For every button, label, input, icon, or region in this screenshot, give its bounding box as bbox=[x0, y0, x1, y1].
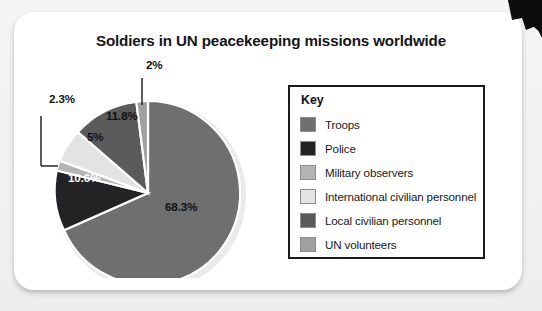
legend-box: Key Troops Police Military observers Int… bbox=[288, 85, 485, 259]
pie-label-local-civilian: 11.8% bbox=[106, 109, 138, 122]
legend-swatch-un-volunteers bbox=[300, 237, 316, 252]
legend-label-un-volunteers: UN volunteers bbox=[325, 238, 397, 251]
pie-label-troops: 68.3% bbox=[165, 200, 197, 213]
pie-label-police: 10.6% bbox=[68, 171, 100, 184]
legend-item-list: Troops Police Military observers Interna… bbox=[300, 112, 479, 256]
legend-label-police: Police bbox=[325, 142, 356, 155]
pie-label-military-observers: 2.3% bbox=[49, 92, 75, 105]
chart-title: Soldiers in UN peacekeeping missions wor… bbox=[0, 32, 542, 49]
legend-item-police[interactable]: Police bbox=[300, 136, 479, 160]
legend-item-un-volunteers[interactable]: UN volunteers bbox=[300, 232, 479, 256]
legend-item-international-civilian[interactable]: International civilian personnel bbox=[300, 184, 479, 208]
pie-label-international-civilian: 5% bbox=[87, 130, 104, 143]
legend-item-troops[interactable]: Troops bbox=[300, 112, 479, 136]
legend-label-international-civilian: International civilian personnel bbox=[325, 190, 476, 203]
legend-label-military-observers: Military observers bbox=[325, 166, 413, 179]
pie-label-un-volunteers: 2% bbox=[146, 58, 163, 71]
page-root: Soldiers in UN peacekeeping missions wor… bbox=[0, 0, 542, 311]
pie-slices bbox=[55, 101, 240, 278]
legend-swatch-international-civilian bbox=[300, 189, 316, 204]
legend-swatch-military-observers bbox=[300, 165, 316, 180]
legend-label-local-civilian: Local civilian personnel bbox=[325, 214, 441, 227]
legend-swatch-police bbox=[300, 141, 316, 156]
legend-swatch-local-civilian bbox=[300, 213, 316, 228]
legend-label-troops: Troops bbox=[325, 118, 360, 131]
legend-title: Key bbox=[301, 93, 324, 107]
legend-item-local-civilian[interactable]: Local civilian personnel bbox=[300, 208, 479, 232]
legend-item-military-observers[interactable]: Military observers bbox=[300, 160, 479, 184]
legend-swatch-troops bbox=[300, 117, 316, 132]
